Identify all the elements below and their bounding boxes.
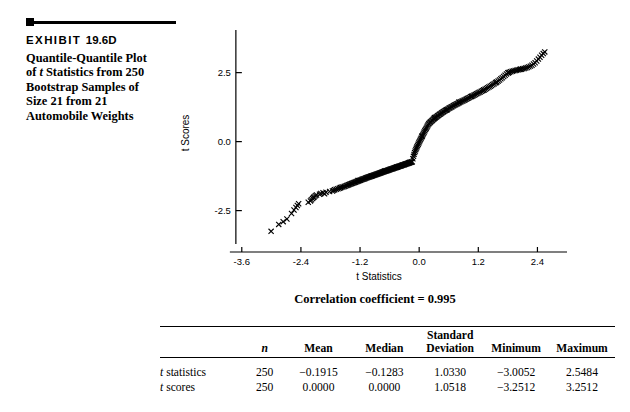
table-header-row: n Mean Median Standard Deviation Minimum… (160, 327, 615, 358)
caption-line-1: Quantile-Quantile Plot (26, 51, 147, 65)
table-header-maximum: Maximum (549, 327, 615, 358)
table-cell-standard-deviation: 1.0518 (417, 381, 483, 396)
table-header-median: Median (351, 327, 417, 358)
exhibit-label: EXHIBIT (26, 34, 81, 46)
table-header-mean: Mean (286, 327, 352, 358)
data-point (542, 49, 547, 54)
y-axis-tick-label: 0.0 (218, 136, 231, 147)
y-axis-title: t Scores (180, 115, 191, 152)
table-header-sd-line1: Standard (427, 329, 473, 342)
exhibit-number-value: 19.6D (86, 34, 117, 46)
table-cell-mean: 0.0000 (286, 381, 352, 396)
caption-line-5: Automobile Weights (26, 109, 134, 123)
table-row-label-italic: t (160, 381, 163, 394)
exhibit-caption-block: EXHIBIT 19.6D Quantile-Quantile Plot of … (26, 18, 176, 123)
exhibit-description: Quantile-Quantile Plot of t Statistics f… (26, 51, 176, 123)
table-row-label-italic: t (160, 366, 163, 379)
table-cell-maximum: 3.2512 (549, 381, 615, 396)
table-cell-standard-deviation: 1.0330 (417, 358, 483, 381)
quantile-quantile-plot: -3.6-2.4-1.20.01.22.42.50.0-2.5t Statist… (175, 20, 575, 320)
table-header-minimum: Minimum (483, 327, 549, 358)
plot-axes (230, 30, 567, 252)
x-axis-tick-label: -2.4 (293, 256, 309, 267)
x-axis-tick-label: 2.4 (531, 256, 544, 267)
x-axis-tick-label: -3.6 (234, 256, 250, 267)
table-cell-n: 250 (244, 381, 286, 396)
table-row: t scores2500.00000.00001.0518−3.25123.25… (160, 381, 615, 396)
table-header-sd-line2: Deviation (426, 342, 474, 355)
table-row: t statistics250−0.1915−0.12831.0330−3.00… (160, 358, 615, 381)
x-axis-tick-label: 0.0 (413, 256, 426, 267)
x-axis-tick-label: -1.2 (352, 256, 368, 267)
table-cell-n: 250 (244, 358, 286, 381)
y-axis-tick-label: -2.5 (214, 205, 230, 216)
table-cell-minimum: −3.0052 (483, 358, 549, 381)
caption-line-2-prefix: of (26, 65, 39, 79)
caption-line-4: Size 21 from 21 (26, 94, 107, 108)
table-header-standard-deviation: Standard Deviation (417, 327, 483, 358)
x-axis-title: t Statistics (356, 271, 402, 282)
table-cell-minimum: −3.2512 (483, 381, 549, 396)
data-point (289, 211, 294, 216)
table-row-label: t statistics (160, 358, 244, 381)
plot-canvas: -3.6-2.4-1.20.01.22.42.50.0-2.5t Statist… (175, 20, 575, 290)
table-cell-maximum: 2.5484 (549, 358, 615, 381)
scatter-points (268, 49, 547, 234)
summary-statistics-table: n Mean Median Standard Deviation Minimum… (160, 326, 615, 395)
table-header-n: n (244, 327, 286, 358)
data-point (276, 222, 281, 227)
caption-line-3: Bootstrap Samples of (26, 80, 139, 94)
table-cell-mean: −0.1915 (286, 358, 352, 381)
table-cell-median: 0.0000 (351, 381, 417, 396)
data-point (268, 229, 273, 234)
table-body: t statistics250−0.1915−0.12831.0330−3.00… (160, 358, 615, 396)
x-axis-tick-label: 1.2 (472, 256, 485, 267)
table-cell-median: −0.1283 (351, 358, 417, 381)
caption-line-2-suffix: Statistics from 250 (43, 65, 144, 79)
table-row-label: t scores (160, 381, 244, 396)
exhibit-rule-bar (32, 21, 176, 24)
correlation-coefficient-label: Correlation coefficient = 0.995 (175, 292, 575, 307)
table-header-blank (160, 327, 244, 358)
y-axis-tick-label: 2.5 (218, 67, 231, 78)
exhibit-rule (26, 18, 176, 27)
exhibit-heading: EXHIBIT 19.6D (26, 34, 176, 46)
plot-labels: -3.6-2.4-1.20.01.22.42.50.0-2.5t Statist… (180, 67, 544, 282)
